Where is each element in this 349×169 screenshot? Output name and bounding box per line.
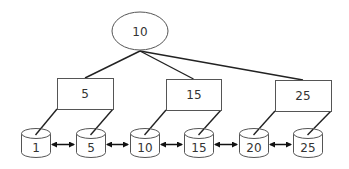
leaf-node-label: 5 [87,142,95,154]
leaf-node-label: 15 [191,142,206,154]
internal-node-label: 5 [81,88,89,100]
leaf-node-label: 1 [32,142,40,154]
root-node-label: 10 [132,26,147,38]
tree-canvas [0,0,349,169]
b-plus-tree-diagram: 10 5 15 25 1 5 10 15 20 25 [0,0,349,169]
tree-edge [85,51,140,78]
tree-nodes [22,12,332,158]
tree-edge [140,51,303,80]
leaf-node-label: 10 [137,142,152,154]
leaf-node-label: 25 [300,142,315,154]
leaf-node-label: 20 [246,142,261,154]
internal-node-label: 15 [186,89,201,101]
internal-node-label: 25 [295,90,310,102]
